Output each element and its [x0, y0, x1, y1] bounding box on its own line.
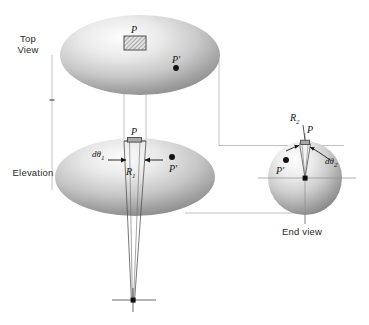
d-theta-1-base: dθ [92, 149, 101, 159]
label-p-prime-end-view: P′ [276, 165, 284, 176]
d-theta-1-sub: 1 [101, 154, 105, 162]
end-view-label: End view [274, 226, 330, 237]
point-p-prime-dot-top-view [173, 65, 179, 71]
r-1-sub: 1 [132, 172, 136, 180]
d-theta-2-base: dθ [325, 156, 334, 166]
label-p-elevation: P [131, 126, 137, 137]
point-p-prime-dot-end-view [283, 157, 289, 163]
r-2-sub: 2 [296, 118, 300, 126]
label-r-2: R2 [290, 112, 300, 126]
point-p-prime-dot-elevation [169, 154, 175, 160]
top-view-body [60, 15, 220, 95]
label-d-theta-1: dθ1 [92, 149, 104, 162]
diagram-artwork [0, 0, 369, 325]
label-d-theta-2: dθ2 [325, 156, 337, 169]
elevation-view-label: Elevation [2, 167, 64, 178]
label-p-prime-top-view: P′ [172, 54, 180, 65]
label-p-prime-elevation: P′ [169, 163, 177, 174]
d-theta-2-sub: 2 [334, 161, 338, 169]
top-view-label: Top View [8, 33, 48, 55]
label-p-end-view: P [307, 124, 313, 135]
figure-canvas: Top View Elevation End view P P′ P P′ dθ… [0, 0, 369, 325]
label-r-1: R1 [126, 166, 136, 180]
label-p-top-view: P [131, 24, 137, 35]
element-patch-top-view [124, 36, 146, 50]
